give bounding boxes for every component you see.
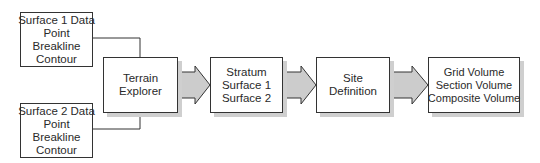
node-surface2-line: Point bbox=[43, 118, 69, 131]
node-terrain-line: Terrain bbox=[123, 72, 158, 85]
arrow-terrain-stratum-icon bbox=[177, 66, 210, 104]
node-stratum: Stratum Surface 1 Surface 2 bbox=[210, 57, 283, 113]
node-surface1-line: Surface 1 Data bbox=[18, 14, 95, 27]
connector-surface1-terrain bbox=[92, 38, 140, 57]
node-stratum-line: Stratum bbox=[226, 66, 266, 79]
node-surface1-line: Point bbox=[43, 27, 69, 40]
arrow-site-volume-icon bbox=[390, 66, 428, 104]
node-site-line: Site bbox=[343, 72, 363, 85]
node-stratum-line: Surface 1 bbox=[222, 79, 271, 92]
arrow-stratum-site-icon bbox=[283, 66, 316, 104]
node-surface2-line: Contour bbox=[36, 144, 77, 157]
node-surface2-line: Surface 2 Data bbox=[18, 105, 95, 118]
connector-surface2-terrain bbox=[92, 112, 140, 129]
node-surface2: Surface 2 Data Point Breakline Contour bbox=[20, 103, 93, 158]
node-surface2-line: Breakline bbox=[33, 131, 81, 144]
node-terrain-explorer: Terrain Explorer bbox=[103, 57, 178, 113]
node-volume: Grid Volume Section Volume Composite Vol… bbox=[428, 57, 520, 113]
node-site-definition: Site Definition bbox=[316, 57, 390, 113]
node-volume-line: Section Volume bbox=[436, 79, 512, 92]
node-surface1-line: Breakline bbox=[33, 40, 81, 53]
node-terrain-line: Explorer bbox=[119, 85, 162, 98]
node-stratum-line: Surface 2 bbox=[222, 92, 271, 105]
node-site-line: Definition bbox=[329, 85, 377, 98]
node-surface1-line: Contour bbox=[36, 53, 77, 66]
workflow-diagram: Surface 1 Data Point Breakline Contour S… bbox=[0, 0, 540, 163]
node-surface1: Surface 1 Data Point Breakline Contour bbox=[20, 12, 93, 67]
node-volume-line: Grid Volume bbox=[444, 66, 505, 79]
node-volume-line: Composite Volume bbox=[428, 92, 520, 105]
